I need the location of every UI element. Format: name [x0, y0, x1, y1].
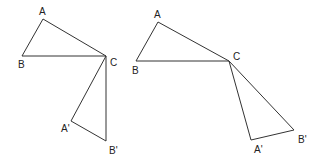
- diagram-canvas: A B C A' B' A B C A' B': [0, 0, 321, 161]
- label-b-prime-right: B': [298, 134, 307, 145]
- label-a-right: A: [154, 9, 161, 20]
- label-b-left: B: [18, 59, 25, 70]
- label-a-prime-right: A': [254, 144, 263, 155]
- label-a-left: A: [39, 6, 46, 17]
- label-c-left: C: [110, 57, 117, 68]
- label-b-prime-left: B': [109, 145, 118, 156]
- label-a-prime-left: A': [61, 123, 70, 134]
- label-c-right: C: [233, 51, 240, 62]
- label-b-right: B: [132, 65, 139, 76]
- triangle-a2b2c-left: [71, 56, 106, 141]
- triangle-a2b2c-right: [229, 61, 294, 140]
- left-figure: A B C A' B': [18, 6, 118, 156]
- right-figure: A B C A' B': [132, 9, 307, 155]
- triangle-abc-right: [136, 22, 229, 61]
- triangle-rotation-diagram: A B C A' B' A B C A' B': [0, 0, 321, 161]
- triangle-abc-left: [22, 19, 106, 56]
